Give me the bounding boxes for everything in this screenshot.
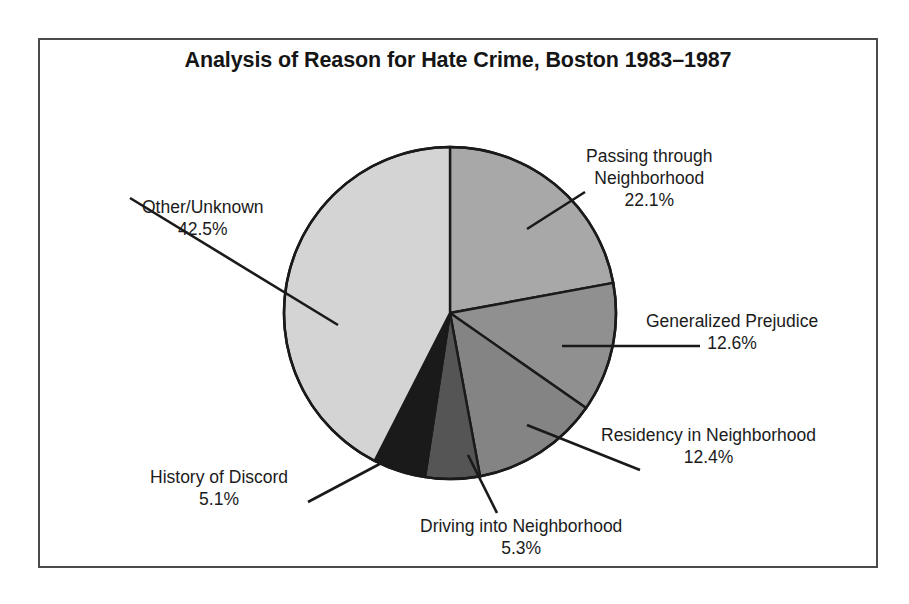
callout-percent: 12.4% — [601, 446, 816, 468]
callout-label-line1: Residency in Neighborhood — [601, 424, 816, 446]
callout-label-line2: Neighborhood — [586, 167, 712, 189]
callout-percent: 22.1% — [586, 189, 712, 211]
callout-driving-into-neighborhood: Driving into Neighborhood 5.3% — [420, 515, 622, 559]
callout-percent: 5.1% — [150, 488, 288, 510]
callout-percent: 5.3% — [420, 537, 622, 559]
callout-generalized-prejudice: Generalized Prejudice 12.6% — [646, 310, 818, 354]
callout-label-line1: Generalized Prejudice — [646, 310, 818, 332]
figure-root: Analysis of Reason for Hate Crime, Bosto… — [0, 0, 909, 604]
callout-percent: 42.5% — [142, 218, 264, 240]
pie-slice-group — [284, 147, 616, 479]
callout-residency-in-neighborhood: Residency in Neighborhood 12.4% — [601, 424, 816, 468]
pie-chart — [0, 0, 909, 604]
callout-label-line1: Other/Unknown — [142, 196, 264, 218]
callout-passing-through-neighborhood: Passing through Neighborhood 22.1% — [586, 145, 712, 211]
callout-label-line1: History of Discord — [150, 466, 288, 488]
callout-other-unknown: Other/Unknown 42.5% — [142, 196, 264, 240]
callout-label-line1: Driving into Neighborhood — [420, 515, 622, 537]
callout-label-line1: Passing through — [586, 145, 712, 167]
callout-history-of-discord: History of Discord 5.1% — [150, 466, 288, 510]
callout-percent: 12.6% — [646, 332, 818, 354]
leader-line-history — [308, 450, 406, 502]
